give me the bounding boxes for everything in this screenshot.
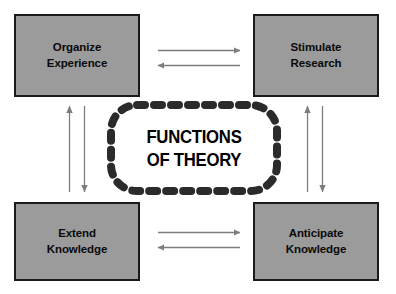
node-organize-experience[interactable]: Organize Experience: [14, 14, 140, 97]
node-anticipate-knowledge-label: Anticipate Knowledge: [282, 226, 350, 256]
center-node-functions-of-theory[interactable]: FUNCTIONS OF THEORY: [106, 100, 282, 196]
node-extend-knowledge-label: Extend Knowledge: [43, 226, 111, 256]
node-stimulate-research[interactable]: Stimulate Research: [253, 14, 379, 97]
node-stimulate-research-label: Stimulate Research: [287, 40, 346, 70]
node-extend-knowledge[interactable]: Extend Knowledge: [14, 202, 140, 281]
functions-of-theory-diagram: Organize Experience Stimulate Research E…: [0, 0, 396, 294]
center-node-label: FUNCTIONS OF THEORY: [117, 100, 272, 196]
node-organize-experience-label: Organize Experience: [43, 40, 111, 70]
node-anticipate-knowledge[interactable]: Anticipate Knowledge: [253, 202, 379, 281]
